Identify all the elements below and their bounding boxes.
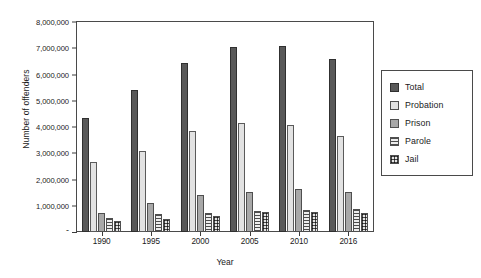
x-axis-tick-mark — [250, 232, 251, 236]
bar-jail — [311, 212, 318, 232]
y-axis-tick-label: 1,000,000 — [36, 201, 72, 210]
bar-probation — [139, 151, 146, 232]
y-axis-tick-label: 4,000,000 — [36, 123, 72, 132]
legend-label: Jail — [405, 154, 419, 164]
y-axis-tick: 7,000,000 — [36, 44, 77, 53]
y-axis-title: Number of offenders — [21, 29, 31, 189]
bar-total — [131, 90, 138, 232]
bar-parole — [353, 209, 360, 232]
x-axis-tick-label: 2010 — [290, 237, 308, 246]
bar-chart-figure: Number of offenders -1,000,0002,000,0003… — [0, 0, 481, 278]
bar-jail — [262, 212, 269, 232]
bar-probation — [189, 131, 196, 232]
bar-prison — [246, 192, 253, 232]
bar-total — [82, 118, 89, 232]
y-axis-tick-label: 5,000,000 — [36, 96, 72, 105]
y-axis-tick-label: 3,000,000 — [36, 149, 72, 158]
x-axis-title: Year — [76, 257, 374, 267]
bar-probation — [337, 136, 344, 232]
y-axis-tick: - — [66, 227, 77, 237]
bar-parole — [106, 218, 113, 232]
bar-prison — [98, 213, 105, 232]
bar-parole — [205, 213, 212, 232]
x-axis-tick-label: 2000 — [191, 237, 209, 246]
x-axis-tick-mark — [200, 232, 201, 236]
y-axis-tick-label: - — [66, 225, 72, 235]
legend-label: Total — [405, 82, 424, 92]
legend-swatch-parole — [390, 137, 399, 146]
y-axis-tick-mark — [72, 74, 77, 75]
bar-total — [181, 63, 188, 232]
bar-total — [329, 59, 336, 233]
legend-item-parole: Parole — [390, 132, 466, 150]
x-axis-tick-mark — [102, 232, 103, 236]
bar-group — [225, 47, 274, 232]
bar-probation — [287, 125, 294, 232]
y-axis-tick: 1,000,000 — [36, 201, 77, 210]
legend-item-jail: Jail — [390, 150, 466, 168]
legend-label: Probation — [405, 100, 444, 110]
legend-label: Parole — [405, 136, 431, 146]
bar-total — [279, 46, 286, 232]
y-axis-tick: 3,000,000 — [36, 149, 77, 158]
chart-legend: TotalProbationPrisonParoleJail — [381, 70, 473, 176]
legend-item-total: Total — [390, 78, 466, 96]
y-axis-tick-label: 8,000,000 — [36, 18, 72, 27]
plot-area: -1,000,0002,000,0003,000,0004,000,0005,0… — [77, 22, 373, 232]
y-axis-tick-mark — [72, 22, 77, 23]
legend-swatch-total — [390, 83, 399, 92]
y-axis-tick: 6,000,000 — [36, 70, 77, 79]
y-axis-tick: 8,000,000 — [36, 18, 77, 27]
bar-probation — [90, 162, 97, 232]
bar-prison — [295, 189, 302, 232]
bar-group — [274, 46, 323, 232]
bar-prison — [345, 192, 352, 232]
legend-swatch-jail — [390, 155, 399, 164]
bar-probation — [238, 123, 245, 232]
bar-parole — [155, 214, 162, 232]
legend-swatch-prison — [390, 119, 399, 128]
y-axis-tick-label: 2,000,000 — [36, 175, 72, 184]
x-axis-tick-label: 2005 — [241, 237, 259, 246]
legend-item-prison: Prison — [390, 114, 466, 132]
bar-group — [126, 90, 175, 232]
legend-label: Prison — [405, 118, 431, 128]
bar-jail — [163, 219, 170, 232]
y-axis-tick-label: 7,000,000 — [36, 44, 72, 53]
bar-group — [77, 118, 126, 232]
legend-item-probation: Probation — [390, 96, 466, 114]
x-axis-tick-mark — [348, 232, 349, 236]
bar-parole — [254, 211, 261, 232]
y-axis-tick-mark — [72, 48, 77, 49]
bar-prison — [147, 203, 154, 232]
bar-total — [230, 47, 237, 232]
bar-jail — [114, 221, 121, 232]
x-axis-tick-label: 1995 — [142, 237, 160, 246]
y-axis-tick-label: 6,000,000 — [36, 70, 72, 79]
x-axis-tick-label: 1990 — [93, 237, 111, 246]
y-axis-tick: 2,000,000 — [36, 175, 77, 184]
y-axis-tick: 4,000,000 — [36, 123, 77, 132]
legend-swatch-probation — [390, 101, 399, 110]
bar-group — [176, 63, 225, 232]
bar-group — [324, 59, 373, 233]
y-axis-tick: 5,000,000 — [36, 96, 77, 105]
x-axis-tick-mark — [151, 232, 152, 236]
x-axis-tick-label: 2016 — [339, 237, 357, 246]
bar-prison — [197, 195, 204, 232]
bar-jail — [213, 216, 220, 232]
bar-jail — [361, 213, 368, 232]
y-axis-tick-mark — [72, 100, 77, 101]
x-axis-tick-mark — [299, 232, 300, 236]
bar-parole — [303, 210, 310, 232]
